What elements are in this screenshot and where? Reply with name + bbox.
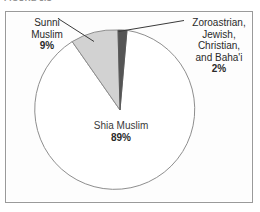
pie-label-minorities-line1: Zoroastrian, (183, 17, 255, 29)
pie-label-minority-religions: Zoroastrian, Jewish, Christian, and Baha… (183, 17, 255, 75)
pie-label-minorities-line4: and Baha'i (183, 52, 255, 64)
pie-label-shia-name: Shia Muslim (66, 120, 176, 132)
pie-label-sunni-line2: Muslim (19, 29, 75, 41)
leader-line-minorities (119, 21, 185, 32)
pie-label-shia-percent: 89% (66, 132, 176, 144)
pie-label-sunni-line1: Sunni (19, 17, 75, 29)
pie-label-sunni-muslim: Sunni Muslim 9% (19, 17, 75, 52)
pie-chart-figure: FIGURE 3.1 Sunni Muslim 9% Zoroastrian, … (0, 0, 260, 212)
pie-label-sunni-percent: 9% (19, 40, 75, 52)
pie-label-minorities-percent: 2% (183, 63, 255, 75)
pie-label-minorities-line3: Christian, (183, 40, 255, 52)
pie-label-shia-muslim: Shia Muslim 89% (66, 120, 176, 143)
pie-label-minorities-line2: Jewish, (183, 29, 255, 41)
